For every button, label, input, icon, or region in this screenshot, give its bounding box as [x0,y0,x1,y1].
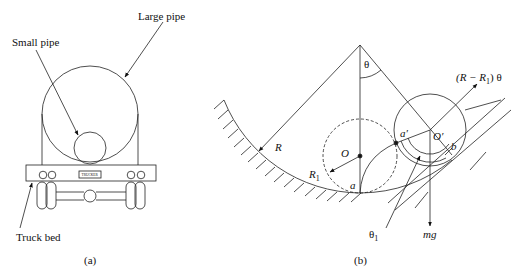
O-prime-label: O′ [433,130,444,142]
small-pipe-circle [74,132,106,164]
R1-sub: 1 [316,174,320,183]
contact-path-curve [360,143,396,193]
wheel-left-outer [37,182,47,209]
wheel-left-inner [46,182,56,209]
a-prime-label: a′ [400,127,409,139]
figure-a [20,22,163,228]
tail-light-icon [127,171,135,179]
tail-light-icon [39,171,47,179]
caption-a: (a) [84,254,97,267]
arc-length-label: (R − R1) θ [456,71,502,86]
theta1-outer-arc [401,141,446,162]
license-plate-text: TRUCKER [82,173,99,177]
theta1-sub: 1 [374,234,378,243]
truck-bed-leader [20,183,32,228]
arc-length-text: (R − R [456,71,486,84]
theta1-label: θ1 [369,228,378,243]
b-label: b [451,140,457,152]
theta-label: θ [364,58,369,70]
small-pipe-label: Small pipe [12,36,59,48]
svg-text:θ1: θ1 [369,228,378,243]
R1-label: R1 [308,168,320,183]
incline-line [395,110,511,210]
wheel-right-outer [135,182,145,209]
theta1-leader [386,156,420,228]
caption-b: (b) [354,254,367,267]
tail-light-icon [48,171,56,179]
wheel-right-inner [126,182,136,209]
R-label: R [274,141,282,153]
arc-length-arrow [430,84,477,130]
figure-canvas: Large pipe Small pipe Truck bed TRUCKER … [0,0,521,272]
O-label: O [341,147,349,159]
truck-bed-label: Truck bed [16,231,61,243]
theta-arc [360,70,381,78]
svg-text:R1: R1 [308,168,320,183]
large-pipe-circle [42,66,138,162]
radius-R-line [259,45,360,151]
large-pipe-label: Large pipe [138,10,185,22]
axle-hub [84,190,96,202]
mg-label: mg [423,228,437,240]
svg-text:(R − R1) θ: (R − R1) θ [456,71,502,86]
large-pipe-leader [125,22,163,77]
a-label: a [350,179,356,191]
arc-length-tail: ) θ [490,71,502,84]
tail-light-icon [137,171,145,179]
center-O-dot [358,154,362,158]
